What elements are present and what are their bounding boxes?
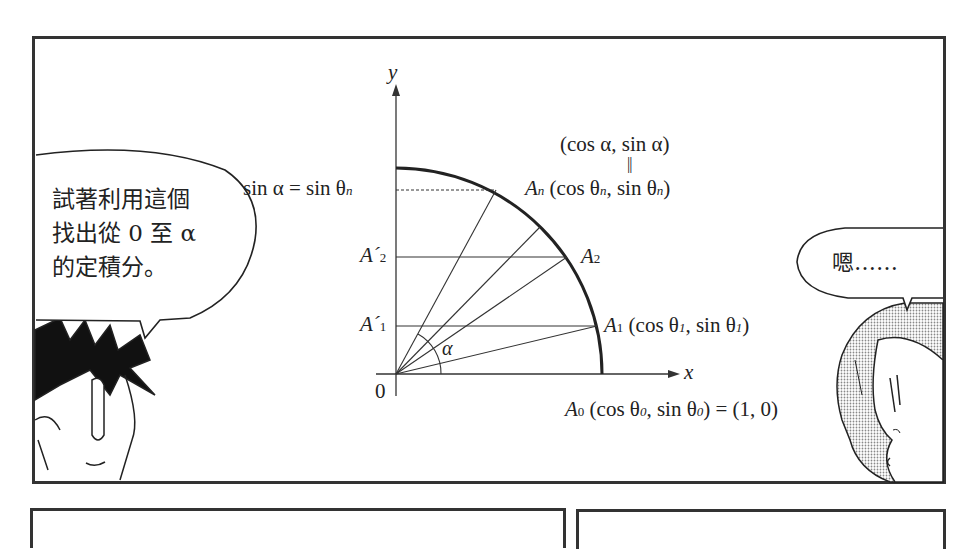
boy-character: [35, 318, 155, 480]
left-bubble-line-1: 試著利用這個: [52, 182, 196, 216]
girl-character: [837, 303, 943, 482]
A1-label: A1 (cos θ1, sin θ1): [604, 315, 749, 336]
equals-vertical-mark: ||: [627, 156, 631, 172]
top-point-label: (cos α, sin α): [560, 134, 670, 155]
origin-label: 0: [375, 381, 386, 402]
left-bubble-line-2: 找出從 0 至 α: [52, 216, 196, 250]
alpha-label: α: [442, 338, 453, 358]
y-axis-arrow-icon: [392, 84, 400, 96]
left-bubble-line-3: 的定積分。: [52, 250, 196, 284]
radial-lines: [396, 190, 597, 374]
left-bubble-text: 試著利用這個 找出從 0 至 α 的定積分。: [52, 182, 196, 284]
An-label: An (cos θn, sin θn): [525, 178, 670, 199]
bottom-right-panel: [576, 509, 946, 549]
A2-label: A2: [581, 246, 600, 267]
A2-prime-label: A´2: [360, 245, 386, 266]
bottom-left-panel: [30, 508, 566, 548]
sin-alpha-label: sin α = sin θn: [243, 178, 352, 199]
A0-label: A0 (cos θ0, sin θ0) = (1, 0): [565, 399, 778, 420]
A1-prime-label: A´1: [360, 314, 386, 335]
y-axis-label: y: [388, 62, 397, 83]
x-axis-label: x: [684, 362, 693, 383]
right-bubble-text: 嗯……: [832, 246, 898, 280]
x-axis-arrow-icon: [668, 370, 680, 378]
